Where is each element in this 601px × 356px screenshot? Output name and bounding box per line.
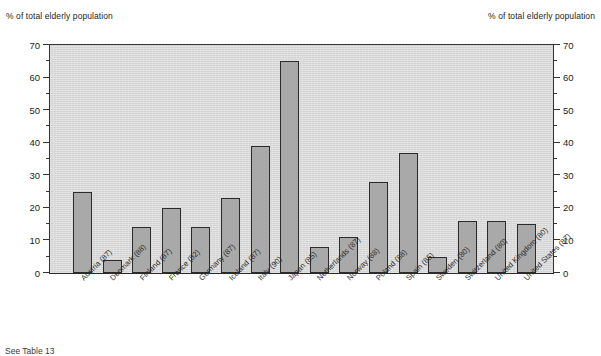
y-tick-minor-right-35 — [553, 158, 557, 159]
y-tick-major-left-30 — [43, 174, 50, 175]
figure-footnote: See Table 13 — [5, 346, 54, 356]
y-tick-label-right-60: 60 — [563, 73, 574, 83]
y-tick-label-left-40: 40 — [29, 138, 40, 148]
y-tick-major-left-40 — [43, 142, 50, 143]
x-axis-category-labels: Austria (87)Denmark (88)Finland (87)Fran… — [49, 274, 552, 336]
y-tick-label-left-50: 50 — [29, 106, 40, 116]
y-tick-minor-right-15 — [553, 223, 557, 224]
y-tick-label-left-20: 20 — [29, 203, 40, 213]
chart-figure: % of total elderly population % of total… — [0, 0, 601, 356]
y-tick-major-right-70 — [553, 44, 560, 45]
plot-area: 001010202030304040505060607070 — [49, 44, 554, 274]
y-axis-unit-label-right: % of total elderly population — [488, 11, 595, 21]
y-tick-major-left-20 — [43, 207, 50, 208]
y-tick-label-left-70: 70 — [29, 41, 40, 51]
y-tick-major-right-30 — [553, 174, 560, 175]
y-tick-major-left-60 — [43, 77, 50, 78]
y-tick-label-left-10: 10 — [29, 236, 40, 246]
y-tick-major-right-60 — [553, 77, 560, 78]
y-tick-major-right-40 — [553, 142, 560, 143]
y-tick-minor-right-45 — [553, 125, 557, 126]
y-tick-major-left-0 — [43, 272, 50, 273]
y-tick-label-right-0: 0 — [563, 269, 568, 279]
bar-series — [50, 45, 553, 273]
y-tick-minor-right-25 — [553, 191, 557, 192]
y-tick-major-left-70 — [43, 44, 50, 45]
y-tick-label-left-60: 60 — [29, 73, 40, 83]
y-tick-major-left-10 — [43, 239, 50, 240]
bar — [73, 192, 92, 273]
y-tick-label-right-30: 30 — [563, 171, 574, 181]
bar — [280, 61, 299, 273]
y-tick-minor-right-55 — [553, 93, 557, 94]
y-axis-unit-label-left: % of total elderly population — [6, 11, 113, 21]
y-tick-label-right-50: 50 — [563, 106, 574, 116]
y-tick-major-right-20 — [553, 207, 560, 208]
y-tick-major-right-0 — [553, 272, 560, 273]
y-tick-label-right-40: 40 — [563, 138, 574, 148]
y-tick-label-right-70: 70 — [563, 41, 574, 51]
y-tick-minor-right-65 — [553, 60, 557, 61]
y-tick-label-left-0: 0 — [35, 269, 40, 279]
y-tick-label-left-30: 30 — [29, 171, 40, 181]
y-tick-label-right-20: 20 — [563, 203, 574, 213]
y-tick-major-right-50 — [553, 109, 560, 110]
y-tick-major-left-50 — [43, 109, 50, 110]
